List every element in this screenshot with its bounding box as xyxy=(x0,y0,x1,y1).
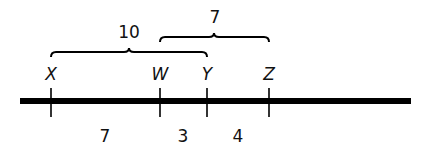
number-line-diagram: X W Y Z 7 3 4 10 7 xyxy=(0,0,426,152)
point-label-x: X xyxy=(44,64,57,84)
segment-label-yz: 4 xyxy=(233,126,244,146)
point-label-y: Y xyxy=(202,64,214,84)
point-label-z: Z xyxy=(262,64,275,84)
brace-label-wz: 7 xyxy=(210,7,221,27)
brace-xy xyxy=(51,48,207,57)
point-label-w: W xyxy=(152,64,170,84)
segment-label-xw: 7 xyxy=(100,126,111,146)
brace-wz xyxy=(160,33,269,42)
brace-label-xy: 10 xyxy=(118,22,140,42)
segment-label-wy: 3 xyxy=(178,126,189,146)
